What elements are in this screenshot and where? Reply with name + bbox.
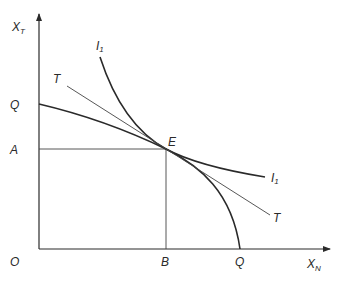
ppf-indifference-diagram: XT XN O Q A B Q E I1 I1 T T bbox=[0, 0, 341, 283]
equilibrium-label: E bbox=[168, 135, 177, 149]
q-y-intercept-label: Q bbox=[10, 98, 19, 112]
q-x-intercept-label: Q bbox=[235, 255, 244, 269]
tangent-label-left: T bbox=[53, 72, 62, 86]
origin-label: O bbox=[10, 255, 19, 269]
x-axis-label: XN bbox=[306, 257, 321, 273]
y-axis-label: XT bbox=[11, 20, 26, 36]
tangent-line bbox=[67, 86, 270, 215]
indifference-label-right: I1 bbox=[271, 171, 279, 186]
tangent-label-right: T bbox=[273, 211, 282, 225]
a-label: A bbox=[9, 143, 18, 157]
b-label: B bbox=[161, 255, 169, 269]
indifference-label-top: I1 bbox=[96, 39, 104, 54]
